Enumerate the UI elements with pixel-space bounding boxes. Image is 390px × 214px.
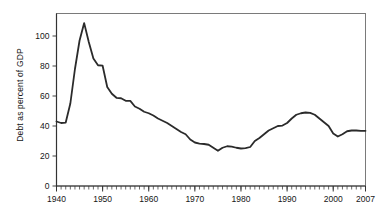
y-tick-label: 0 (45, 181, 50, 191)
x-tick-label: 1960 (139, 194, 158, 204)
x-axis-tick-labels: 19401950196019701980199020002007 (47, 194, 375, 204)
y-tick-label: 100 (35, 31, 49, 41)
y-tick-label: 40 (40, 121, 50, 131)
y-tick-label: 80 (40, 61, 50, 71)
y-tick-label: 60 (40, 91, 50, 101)
x-tick-label: 1950 (93, 194, 112, 204)
x-tick-label: 2007 (356, 194, 375, 204)
x-tick-label: 1990 (278, 194, 297, 204)
y-tick-label: 20 (40, 151, 50, 161)
plot-frame (57, 14, 366, 187)
chart-container: Debt as percent of GDP 020406080100 1940… (0, 0, 390, 214)
x-tick-label: 1970 (185, 194, 204, 204)
debt-to-gdp-line-chart: 020406080100 194019501960197019801990200… (0, 0, 390, 214)
x-tick-label: 1940 (47, 194, 66, 204)
x-tick-label: 2000 (324, 194, 343, 204)
y-axis-tick-labels: 020406080100 (35, 31, 49, 191)
x-tick-label: 1980 (232, 194, 251, 204)
